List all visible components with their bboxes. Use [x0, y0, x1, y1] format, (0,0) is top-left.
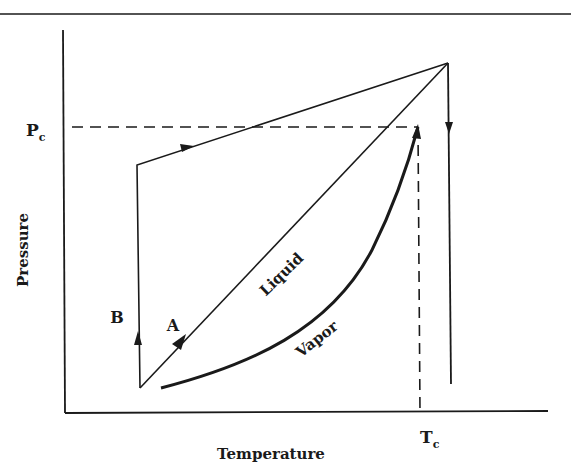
x-axis	[65, 411, 548, 413]
critical-temperature-label: Tc	[420, 427, 440, 451]
descending-arrow-icon	[445, 122, 453, 134]
path-b-label: B	[110, 308, 124, 327]
pressure-temperature-diagram: Pc Tc Temperature Pressure B A Liquid Va…	[0, 0, 571, 475]
y-axis-label: Pressure	[14, 213, 32, 287]
y-axis	[63, 30, 65, 413]
x-axis-label: Temperature	[217, 445, 325, 463]
path-a-line	[140, 63, 448, 388]
vapor-region-label: Vapor	[292, 316, 343, 361]
descending-line	[448, 63, 451, 384]
critical-temperature-line	[418, 127, 420, 413]
critical-pressure-label: Pc	[26, 120, 46, 144]
path-a-label: A	[166, 316, 180, 335]
path-b-vertical-arrow-icon	[134, 331, 142, 345]
path-b-slanted-arrow-icon	[180, 144, 194, 152]
